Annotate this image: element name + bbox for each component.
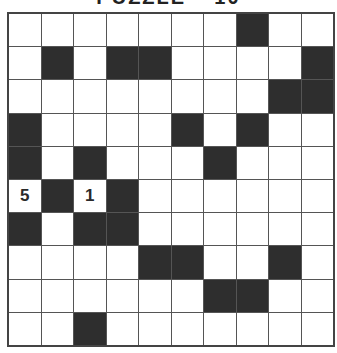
white-cell[interactable] xyxy=(269,213,301,245)
white-cell[interactable] xyxy=(204,246,236,278)
white-cell[interactable] xyxy=(139,280,171,312)
black-cell xyxy=(74,213,106,245)
white-cell[interactable] xyxy=(204,80,236,112)
white-cell[interactable] xyxy=(237,246,269,278)
numbered-cell[interactable]: 5 xyxy=(9,180,41,212)
white-cell[interactable] xyxy=(302,180,334,212)
white-cell[interactable] xyxy=(139,14,171,46)
white-cell[interactable] xyxy=(74,280,106,312)
white-cell[interactable] xyxy=(9,280,41,312)
white-cell[interactable] xyxy=(172,147,204,179)
white-cell[interactable] xyxy=(139,147,171,179)
black-cell xyxy=(237,114,269,146)
white-cell[interactable] xyxy=(9,14,41,46)
white-cell[interactable] xyxy=(302,114,334,146)
white-cell[interactable] xyxy=(9,246,41,278)
white-cell[interactable] xyxy=(107,313,139,345)
white-cell[interactable] xyxy=(302,246,334,278)
white-cell[interactable] xyxy=(204,14,236,46)
white-cell[interactable] xyxy=(74,246,106,278)
white-cell[interactable] xyxy=(139,313,171,345)
white-cell[interactable] xyxy=(74,47,106,79)
white-cell[interactable] xyxy=(269,313,301,345)
black-cell xyxy=(74,147,106,179)
white-cell[interactable] xyxy=(204,213,236,245)
white-cell[interactable] xyxy=(237,313,269,345)
cell-number: 1 xyxy=(85,186,94,206)
white-cell[interactable] xyxy=(42,280,74,312)
white-cell[interactable] xyxy=(172,47,204,79)
white-cell[interactable] xyxy=(204,47,236,79)
black-cell xyxy=(74,313,106,345)
white-cell[interactable] xyxy=(9,80,41,112)
white-cell[interactable] xyxy=(204,180,236,212)
white-cell[interactable] xyxy=(269,180,301,212)
black-cell xyxy=(9,147,41,179)
white-cell[interactable] xyxy=(139,213,171,245)
black-cell xyxy=(204,147,236,179)
white-cell[interactable] xyxy=(172,213,204,245)
white-cell[interactable] xyxy=(269,14,301,46)
black-cell xyxy=(9,114,41,146)
puzzle-title: PUZZLE – 10 xyxy=(0,0,337,9)
white-cell[interactable] xyxy=(302,147,334,179)
white-cell[interactable] xyxy=(269,280,301,312)
white-cell[interactable] xyxy=(42,80,74,112)
black-cell xyxy=(269,246,301,278)
white-cell[interactable] xyxy=(42,114,74,146)
black-cell xyxy=(237,14,269,46)
white-cell[interactable] xyxy=(302,313,334,345)
white-cell[interactable] xyxy=(237,80,269,112)
black-cell xyxy=(139,47,171,79)
black-cell xyxy=(107,180,139,212)
black-cell xyxy=(302,47,334,79)
black-cell xyxy=(42,47,74,79)
black-cell xyxy=(204,280,236,312)
puzzle-grid: 51 xyxy=(7,12,335,347)
white-cell[interactable] xyxy=(172,14,204,46)
white-cell[interactable] xyxy=(302,213,334,245)
white-cell[interactable] xyxy=(42,147,74,179)
white-cell[interactable] xyxy=(42,246,74,278)
white-cell[interactable] xyxy=(172,80,204,112)
white-cell[interactable] xyxy=(204,313,236,345)
white-cell[interactable] xyxy=(269,114,301,146)
black-cell xyxy=(302,80,334,112)
white-cell[interactable] xyxy=(302,14,334,46)
white-cell[interactable] xyxy=(42,14,74,46)
white-cell[interactable] xyxy=(74,80,106,112)
white-cell[interactable] xyxy=(139,80,171,112)
white-cell[interactable] xyxy=(107,280,139,312)
white-cell[interactable] xyxy=(172,280,204,312)
white-cell[interactable] xyxy=(9,47,41,79)
white-cell[interactable] xyxy=(42,213,74,245)
black-cell xyxy=(42,180,74,212)
black-cell xyxy=(237,280,269,312)
white-cell[interactable] xyxy=(237,47,269,79)
white-cell[interactable] xyxy=(269,147,301,179)
white-cell[interactable] xyxy=(302,280,334,312)
black-cell xyxy=(107,47,139,79)
white-cell[interactable] xyxy=(107,80,139,112)
white-cell[interactable] xyxy=(237,147,269,179)
cell-number: 5 xyxy=(20,186,29,206)
white-cell[interactable] xyxy=(237,213,269,245)
white-cell[interactable] xyxy=(139,114,171,146)
white-cell[interactable] xyxy=(172,313,204,345)
white-cell[interactable] xyxy=(107,147,139,179)
white-cell[interactable] xyxy=(107,14,139,46)
white-cell[interactable] xyxy=(107,246,139,278)
white-cell[interactable] xyxy=(74,114,106,146)
white-cell[interactable] xyxy=(74,14,106,46)
white-cell[interactable] xyxy=(42,313,74,345)
white-cell[interactable] xyxy=(139,180,171,212)
numbered-cell[interactable]: 1 xyxy=(74,180,106,212)
white-cell[interactable] xyxy=(237,180,269,212)
white-cell[interactable] xyxy=(107,114,139,146)
white-cell[interactable] xyxy=(9,313,41,345)
white-cell[interactable] xyxy=(269,47,301,79)
white-cell[interactable] xyxy=(204,114,236,146)
black-cell xyxy=(269,80,301,112)
white-cell[interactable] xyxy=(172,180,204,212)
black-cell xyxy=(139,246,171,278)
